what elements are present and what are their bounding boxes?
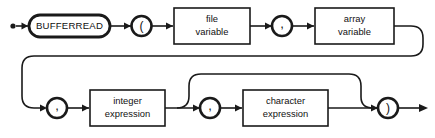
integer-expression-label-line1: integer	[113, 95, 142, 106]
arrowhead-into-integer-expression	[82, 104, 89, 111]
node-keyword-bufferread: BUFFERREAD	[29, 15, 110, 37]
keyword-label: BUFFERREAD	[36, 20, 103, 31]
node-file-variable: file variable	[174, 8, 250, 44]
arrowhead-into-character-expression	[235, 104, 242, 111]
arrowhead-into-open-paren	[124, 22, 131, 29]
comma3-label: ,	[208, 98, 212, 113]
close-paren-label: )	[386, 101, 390, 115]
node-character-expression: character expression	[243, 90, 328, 126]
arrowhead-into-array-variable	[307, 22, 314, 29]
start-dot-icon	[10, 23, 15, 28]
arrowhead-into-file-variable	[166, 22, 173, 29]
node-comma-2: ,	[47, 98, 67, 118]
bufferread-railroad-diagram: BUFFERREAD ( file variable ,	[0, 0, 435, 138]
file-variable-label-line1: file	[206, 13, 218, 24]
array-variable-label-line1: array	[344, 13, 366, 24]
arrowhead-end-marker-icon	[419, 104, 428, 112]
syntax-diagram-canvas: BUFFERREAD ( file variable ,	[0, 0, 435, 138]
node-array-variable: array variable	[315, 8, 394, 44]
character-expression-label-line2: expression	[263, 108, 308, 119]
comma1-label: ,	[280, 16, 284, 31]
array-variable-label-line2: variable	[338, 26, 371, 37]
comma2-label: ,	[55, 98, 59, 113]
node-comma-1: ,	[272, 16, 292, 36]
node-close-paren: )	[378, 98, 398, 118]
node-integer-expression: integer expression	[90, 90, 165, 126]
arrowhead-into-keyword	[22, 23, 29, 30]
node-open-paren: (	[132, 16, 152, 36]
character-expression-label-line1: character	[266, 95, 305, 106]
open-paren-label: (	[140, 19, 144, 33]
node-comma-3: ,	[200, 98, 220, 118]
file-variable-label-line2: variable	[196, 26, 229, 37]
integer-expression-label-line2: expression	[105, 108, 150, 119]
